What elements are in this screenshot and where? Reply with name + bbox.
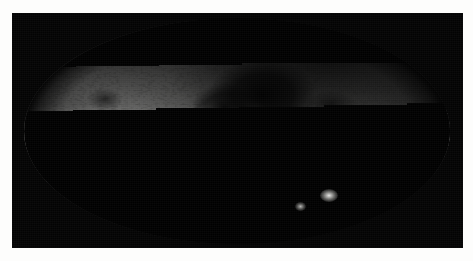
large-magellanic-cloud <box>320 189 338 202</box>
extinction-mottle-layer <box>24 18 450 244</box>
stellar-halo-layer <box>24 18 450 244</box>
galactic-bulge-layer <box>24 18 450 244</box>
all-sky-figure <box>0 0 473 261</box>
star-speckle-layer <box>24 18 450 244</box>
oval-edge-vignette <box>24 18 450 244</box>
small-magellanic-cloud <box>295 202 306 211</box>
galactic-plane-layer <box>24 18 450 244</box>
dust-lane-layer <box>24 18 450 244</box>
figure-plate <box>12 13 463 248</box>
low-density-region-layer <box>24 18 450 244</box>
mollweide-sky-ellipse <box>24 18 450 244</box>
